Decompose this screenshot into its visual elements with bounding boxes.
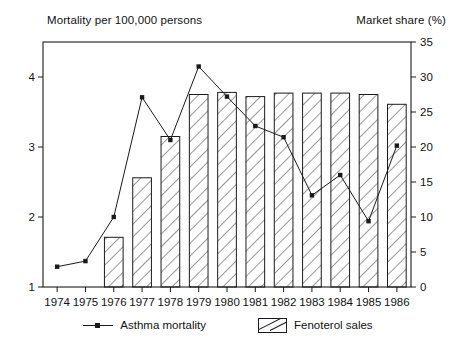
x-tick-label-1981: 1981	[243, 296, 269, 308]
x-tick-label-1977: 1977	[129, 296, 155, 308]
x-tick-label-1976: 1976	[101, 296, 127, 308]
x-tick-label-1986: 1986	[384, 296, 410, 308]
bar-1982	[274, 93, 293, 287]
x-tick-label-1975: 1975	[73, 296, 99, 308]
x-tick-label-1984: 1984	[327, 296, 353, 308]
x-tick-label-1982: 1982	[271, 296, 297, 308]
data-point-1979	[196, 64, 200, 68]
bar-1977	[133, 178, 152, 287]
right-tick-label-0: 0	[420, 281, 440, 293]
bar-1980	[218, 92, 237, 287]
data-point-1986	[395, 143, 399, 147]
left-tick-label-2: 2	[17, 211, 35, 223]
left-tick-label-4: 4	[17, 71, 35, 83]
right-tick-label-20: 20	[420, 141, 440, 153]
left-tick-label-3: 3	[17, 141, 35, 153]
x-tick-label-1985: 1985	[356, 296, 382, 308]
bar-1979	[189, 95, 208, 288]
right-tick-label-5: 5	[420, 246, 440, 258]
data-point-1982	[281, 135, 285, 139]
legend-label-asthma-mortality: Asthma mortality	[120, 319, 206, 331]
data-point-1985	[366, 219, 370, 223]
right-tick-label-25: 25	[420, 106, 440, 118]
chart-figure: Mortality per 100,000 persons Market sha…	[0, 0, 456, 341]
chart-legend: Asthma mortality Fenoterol sales	[0, 312, 456, 338]
right-tick-label-30: 30	[420, 71, 440, 83]
left-tick-label-1: 1	[17, 281, 35, 293]
right-tick-label-15: 15	[420, 176, 440, 188]
data-point-1980	[225, 94, 229, 98]
x-tick-label-1983: 1983	[299, 296, 325, 308]
x-tick-label-1978: 1978	[158, 296, 184, 308]
data-point-1978	[168, 138, 172, 142]
data-point-1983	[310, 193, 314, 197]
x-tick-label-1974: 1974	[44, 296, 70, 308]
plot-area	[0, 0, 456, 341]
data-point-1984	[338, 173, 342, 177]
data-point-1977	[140, 95, 144, 99]
bar-1984	[331, 93, 350, 287]
data-point-1976	[112, 215, 116, 219]
legend-item-fenoterol-sales: Fenoterol sales	[258, 318, 373, 333]
hatched-box-icon	[258, 318, 287, 333]
x-tick-label-1980: 1980	[214, 296, 240, 308]
x-tick-label-1979: 1979	[186, 296, 212, 308]
right-tick-label-35: 35	[420, 36, 440, 48]
data-point-1981	[253, 124, 257, 128]
line-marker-icon	[83, 320, 113, 330]
legend-item-asthma-mortality: Asthma mortality	[83, 319, 206, 331]
legend-label-fenoterol-sales: Fenoterol sales	[294, 319, 373, 331]
bar-1976	[104, 237, 123, 287]
data-point-1974	[55, 265, 59, 269]
bar-1985	[359, 95, 378, 288]
data-point-1975	[83, 259, 87, 263]
bar-1986	[388, 104, 407, 287]
bar-1978	[161, 137, 180, 288]
right-tick-label-10: 10	[420, 211, 440, 223]
